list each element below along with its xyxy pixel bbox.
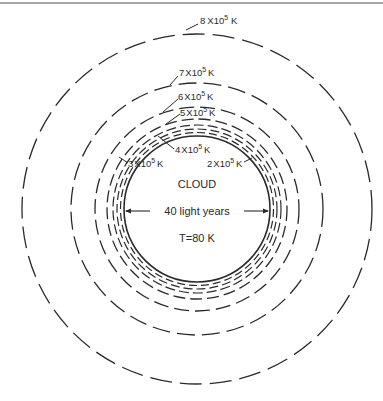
shell-label-5e5: 5X105K <box>180 106 216 118</box>
diameter-label: 40 light years <box>164 205 230 217</box>
shell-label-8e5: 8X105K <box>200 14 238 26</box>
cloud-label: CLOUD <box>178 178 217 190</box>
shell-label-7e5: 7X105K <box>179 66 215 78</box>
leader-7e5 <box>170 76 178 85</box>
shell-temperature-diagram: CLOUD 40 light years T=80 K 8X105K 7X105… <box>0 0 383 401</box>
shell-label-6e5: 6X105K <box>178 90 214 102</box>
shell-label-4e5: 4X105K <box>175 143 211 155</box>
temperature-label: T=80 K <box>179 232 215 244</box>
shell-label-3e5: 3X105K <box>128 157 164 169</box>
leader-4e5 <box>158 136 174 149</box>
arrowhead-right-icon <box>263 209 269 214</box>
leader-8e5 <box>186 24 198 30</box>
shell-label-2e5: 2X105K <box>207 157 243 169</box>
arrowhead-left-icon <box>125 209 131 214</box>
